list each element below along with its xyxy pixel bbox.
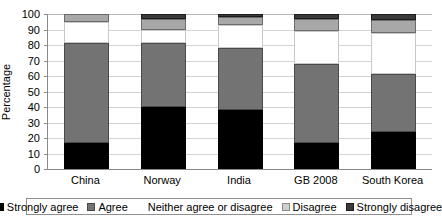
bar-segment[interactable]: [64, 43, 109, 142]
bar-segment[interactable]: [141, 30, 186, 44]
bar-segment[interactable]: [141, 43, 186, 107]
stacked-bar[interactable]: [64, 14, 109, 169]
legend-item[interactable]: Disagree: [282, 201, 337, 213]
bar-segment[interactable]: [64, 22, 109, 44]
legend-label: Agree: [98, 201, 127, 213]
bar-segment[interactable]: [218, 110, 263, 169]
legend-item[interactable]: Neither agree or disagree: [137, 201, 273, 213]
y-tick-label: 80: [0, 40, 40, 51]
y-tick-label: 60: [0, 71, 40, 82]
bar-group[interactable]: [371, 14, 416, 169]
chart-legend: Strongly agreeAgreeNeither agree or disa…: [26, 198, 412, 215]
legend-label: Strongly agree: [7, 201, 79, 213]
bar-segment[interactable]: [218, 17, 263, 25]
legend-swatch-icon: [346, 203, 354, 211]
bars-layer: [48, 14, 432, 169]
bar-segment[interactable]: [294, 143, 339, 169]
legend-item[interactable]: Agree: [87, 201, 127, 213]
y-tick-mark: [44, 169, 48, 170]
y-tick-label: 30: [0, 118, 40, 129]
bar-segment[interactable]: [294, 19, 339, 31]
legend-label: Neither agree or disagree: [148, 201, 273, 213]
bar-segment[interactable]: [371, 20, 416, 32]
y-tick-label: 70: [0, 56, 40, 67]
bar-segment[interactable]: [64, 143, 109, 169]
stacked-bar[interactable]: [141, 14, 186, 169]
bar-group[interactable]: [218, 14, 263, 169]
bar-segment[interactable]: [371, 74, 416, 131]
y-tick-label: 10: [0, 149, 40, 160]
bar-segment[interactable]: [294, 31, 339, 64]
legend-label: Strongly disagree: [357, 201, 442, 213]
bar-segment[interactable]: [64, 14, 109, 22]
legend-label: Disagree: [293, 201, 337, 213]
legend-swatch-icon: [0, 203, 4, 211]
stacked-bar[interactable]: [371, 14, 416, 169]
plot-area: 0102030405060708090100: [47, 14, 432, 170]
y-tick-label: 90: [0, 25, 40, 36]
legend-swatch-icon: [87, 203, 95, 211]
stacked-bar[interactable]: [294, 14, 339, 169]
x-tick-label: South Korea: [362, 174, 423, 186]
bar-segment[interactable]: [294, 14, 339, 19]
x-tick-label: GB 2008: [294, 174, 337, 186]
stacked-bar[interactable]: [218, 14, 263, 169]
bar-segment[interactable]: [218, 14, 263, 17]
bar-group[interactable]: [294, 14, 339, 169]
y-tick-label: 0: [0, 164, 40, 175]
bar-segment[interactable]: [371, 132, 416, 169]
bar-group[interactable]: [64, 14, 109, 169]
legend-item[interactable]: Strongly disagree: [346, 201, 442, 213]
bar-segment[interactable]: [371, 14, 416, 20]
y-tick-label: 20: [0, 133, 40, 144]
bar-segment[interactable]: [141, 107, 186, 169]
x-tick-label: China: [71, 174, 100, 186]
y-tick-label: 100: [0, 9, 40, 20]
y-tick-label: 40: [0, 102, 40, 113]
bar-segment[interactable]: [218, 48, 263, 110]
legend-item[interactable]: Strongly agree: [0, 201, 78, 213]
x-tick-label: India: [227, 174, 251, 186]
x-tick-label: Norway: [144, 174, 181, 186]
bar-segment[interactable]: [218, 25, 263, 48]
bar-segment[interactable]: [371, 33, 416, 75]
bar-group[interactable]: [141, 14, 186, 169]
bar-segment[interactable]: [294, 64, 339, 143]
legend-swatch-icon: [137, 203, 145, 211]
legend-swatch-icon: [282, 203, 290, 211]
bar-segment[interactable]: [141, 14, 186, 19]
bar-segment[interactable]: [141, 19, 186, 30]
y-tick-label: 50: [0, 87, 40, 98]
